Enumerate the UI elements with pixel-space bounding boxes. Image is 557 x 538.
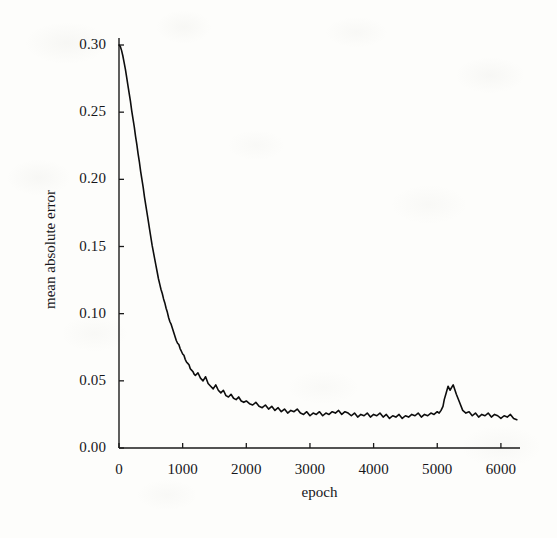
axes-group: [119, 38, 520, 448]
x-tick-label: 6000: [461, 461, 541, 478]
y-tick-label: 0.30: [56, 36, 106, 53]
y-tick-label: 0.25: [56, 103, 106, 120]
x-axis-title: epoch: [260, 484, 380, 501]
plot-canvas: [0, 0, 557, 538]
y-tick-label: 0.20: [56, 170, 106, 187]
y-tick-label: 0.15: [56, 238, 106, 255]
chart-figure: 0.000.050.100.150.200.250.30 01000200030…: [0, 0, 557, 538]
y-tick-marks: [119, 45, 124, 448]
data-series-line: [119, 45, 517, 420]
y-tick-label: 0.10: [56, 305, 106, 322]
y-axis-title: mean absolute error: [42, 189, 59, 308]
y-tick-label: 0.05: [56, 372, 106, 389]
x-tick-marks: [119, 443, 501, 448]
y-tick-label: 0.00: [56, 439, 106, 456]
